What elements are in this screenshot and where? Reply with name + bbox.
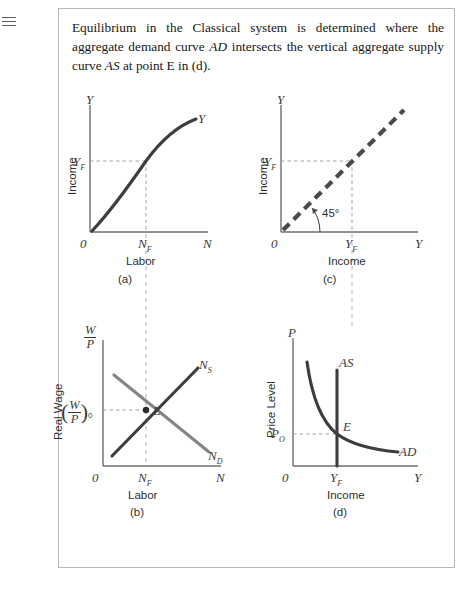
wp-fraction: W P bbox=[84, 324, 96, 351]
panel-b-y-axis-tip: W P bbox=[84, 324, 96, 351]
panel-c-origin: 0 bbox=[271, 236, 278, 252]
caption-term-ad: AD bbox=[209, 39, 227, 54]
panel-a-x-axis-label: Labor bbox=[126, 255, 155, 267]
panel-a-curve-label: Y bbox=[198, 111, 205, 127]
panel-b-x-axis-label: Labor bbox=[128, 489, 157, 501]
panel-a-tag: (a) bbox=[118, 273, 132, 285]
panel-d-equilibrium-label: E bbox=[343, 419, 351, 435]
panel-c-angle-label: 45° bbox=[322, 207, 339, 219]
hamburger-icon[interactable] bbox=[2, 14, 16, 29]
panel-a-x-axis-tip: N bbox=[203, 236, 212, 252]
panel-c-x-axis-tip: Y bbox=[415, 236, 422, 252]
panel-a-origin: 0 bbox=[80, 236, 87, 252]
panel-b-curve-label-ns: NS bbox=[199, 357, 212, 375]
panel-b-ytick-wp0: ( W P )0 bbox=[61, 399, 93, 426]
figure-caption: Equilibrium in the Classical system is d… bbox=[72, 18, 444, 75]
caption-term-as: AS bbox=[105, 58, 120, 73]
panel-b-x-axis-tip: N bbox=[216, 470, 225, 486]
panel-c-ytick-yf: YF bbox=[264, 154, 276, 172]
panel-a-y-axis-tip: Y bbox=[86, 92, 93, 108]
panel-a-ytick-yf: YF bbox=[73, 154, 85, 172]
panel-b-tag: (b) bbox=[130, 506, 144, 518]
panel-d-y-axis-tip: P bbox=[288, 325, 296, 341]
panel-d-x-axis-tip: Y bbox=[414, 470, 421, 486]
panel-d-curve-label-as: AS bbox=[339, 355, 353, 371]
panel-d-tag: (d) bbox=[333, 506, 347, 518]
panel-d-origin: 0 bbox=[282, 470, 289, 486]
panel-c-y-axis-tip: Y bbox=[277, 92, 284, 108]
panel-d-xtick-yf: YF bbox=[330, 470, 342, 488]
panel-b-xtick-nf: NF bbox=[138, 470, 152, 488]
panel-d-x-axis-label: Income bbox=[327, 489, 365, 501]
panel-b-origin: 0 bbox=[92, 470, 99, 486]
caption-text-3: at point E in (d). bbox=[120, 58, 211, 73]
panel-c-x-axis-label: Income bbox=[328, 255, 366, 267]
panel-b-curve-label-nd: ND bbox=[208, 448, 222, 466]
panel-c-tag: (c) bbox=[323, 273, 336, 285]
panel-c-xtick-yf: YF bbox=[345, 236, 357, 254]
figure-box bbox=[58, 8, 455, 568]
panel-b-equilibrium-label: E bbox=[153, 403, 161, 419]
panel-d-curve-label-ad: AD bbox=[399, 444, 416, 460]
panel-d-ytick-p0: PO bbox=[271, 426, 285, 444]
panel-a-xtick-nf: NF bbox=[138, 236, 152, 254]
